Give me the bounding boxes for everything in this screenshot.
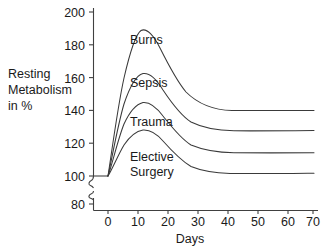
x-tick-label-0: 0	[105, 215, 112, 229]
x-axis-title: Days	[176, 232, 204, 246]
y-tick-label-120: 120	[64, 137, 85, 151]
series-label-sepsis: Sepsis	[130, 76, 168, 90]
series-label-elective-surgery-line-1: Elective	[130, 150, 174, 164]
metabolism-line-chart: 200 180 160 140 120 100 80 0 10 20 30 40…	[0, 0, 332, 250]
x-tick-label-30: 30	[191, 215, 205, 229]
y-axis-break-lower	[89, 191, 94, 200]
x-tick-label-10: 10	[131, 215, 145, 229]
y-axis-title-line-2: Metabolism	[8, 83, 72, 97]
series-label-burns: Burns	[130, 33, 163, 47]
x-tick-label-60: 60	[281, 215, 295, 229]
x-tick-label-50: 50	[251, 215, 265, 229]
y-axis-title-line-3: in %	[8, 99, 32, 113]
chart-figure: 200 180 160 140 120 100 80 0 10 20 30 40…	[0, 0, 332, 250]
x-tick-label-20: 20	[161, 215, 175, 229]
y-axis-title-line-1: Resting	[8, 67, 50, 81]
y-tick-label-200: 200	[64, 6, 85, 20]
y-tick-label-80: 80	[71, 198, 85, 212]
x-tick-label-40: 40	[221, 215, 235, 229]
y-tick-label-100: 100	[64, 170, 85, 184]
y-tick-label-180: 180	[64, 39, 85, 53]
x-tick-label-70: 70	[306, 215, 320, 229]
y-axis-break-upper	[89, 176, 94, 188]
y-tick-label-140: 140	[64, 104, 85, 118]
series-label-trauma: Trauma	[130, 115, 173, 129]
series-label-elective-surgery-line-2: Surgery	[130, 165, 175, 179]
